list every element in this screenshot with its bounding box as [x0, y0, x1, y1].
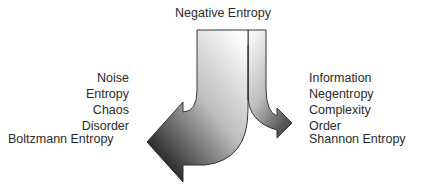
- left-arrow: [147, 30, 248, 182]
- term-noise: Noise: [82, 70, 129, 86]
- right-term-list: Information Negentropy Complexity Order: [309, 70, 374, 134]
- left-term-list: Noise Entropy Chaos Disorder: [82, 70, 129, 134]
- term-information: Information: [309, 70, 374, 86]
- term-chaos: Chaos: [82, 102, 129, 118]
- term-negentropy: Negentropy: [309, 86, 374, 102]
- shannon-entropy-label: Shannon Entropy: [309, 131, 406, 147]
- right-arrow: [248, 30, 292, 138]
- term-complexity: Complexity: [309, 102, 374, 118]
- term-entropy: Entropy: [82, 86, 129, 102]
- boltzmann-entropy-label: Boltzmann Entropy: [8, 131, 114, 147]
